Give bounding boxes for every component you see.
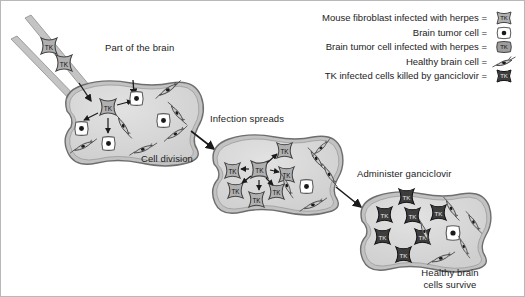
svg-text:TK: TK <box>500 73 508 79</box>
svg-text:TK: TK <box>255 167 264 174</box>
svg-text:TK: TK <box>231 188 240 195</box>
legend-label-healthy-cell: Healthy brain cell = <box>406 55 487 68</box>
legend-label-killed-cell: TK infected cells killed by ganciclovir … <box>325 69 487 82</box>
arrow-stage2-to-stage3 <box>336 187 361 207</box>
caption-cell-division: Cell division <box>141 153 193 164</box>
legend: Mouse fibroblast infected with herpes = … <box>271 11 517 91</box>
stage-2-infection-spreads: TK TK TK TK TK TK TK <box>213 135 343 215</box>
svg-text:TK: TK <box>500 15 508 21</box>
legend-row-tumor-cell: Brain tumor cell = <box>271 26 517 41</box>
legend-row-fibroblast: Mouse fibroblast infected with herpes = … <box>271 11 517 26</box>
svg-text:TK: TK <box>403 194 412 201</box>
legend-label-tumor-infected: Brain tumor cell infected with herpes = <box>326 40 487 53</box>
gene-therapy-diagram: TK TK TK <box>0 0 525 297</box>
legend-row-healthy-cell: Healthy brain cell = <box>271 55 517 70</box>
svg-text:TK: TK <box>500 44 508 50</box>
svg-text:TK: TK <box>400 252 409 259</box>
caption-part-of-the-brain: Part of the brain <box>105 42 174 53</box>
legend-row-killed-cell: TK infected cells killed by ganciclovir … <box>271 69 517 84</box>
svg-text:TK: TK <box>435 210 444 217</box>
svg-text:TK: TK <box>379 234 388 241</box>
caption-administer-ganciclovir: Administer ganciclovir <box>357 168 452 179</box>
caption-healthy-line-2: cells survive <box>395 279 505 291</box>
svg-text:TK: TK <box>409 213 418 220</box>
svg-text:TK: TK <box>252 197 261 204</box>
legend-label-tumor-cell: Brain tumor cell = <box>413 26 487 39</box>
svg-text:TK: TK <box>228 168 237 175</box>
svg-text:TK: TK <box>104 105 113 112</box>
legend-row-tumor-infected: Brain tumor cell infected with herpes = … <box>271 40 517 55</box>
caption-healthy-line-1: Healthy brain <box>395 267 505 279</box>
legend-label-fibroblast: Mouse fibroblast infected with herpes = <box>322 11 487 24</box>
caption-infection-spreads: Infection spreads <box>210 113 284 124</box>
killed-cell-icon: TK <box>491 68 517 84</box>
svg-text:TK: TK <box>280 148 289 155</box>
svg-text:TK: TK <box>381 212 390 219</box>
stage-3-ganciclovir: TK TK TK TK TK TK TK <box>361 189 491 272</box>
svg-text:TK: TK <box>45 44 54 51</box>
caption-healthy-brain-cells-survive: Healthy brain cells survive <box>395 267 505 290</box>
svg-text:TK: TK <box>60 61 69 68</box>
svg-text:TK: TK <box>272 189 281 196</box>
